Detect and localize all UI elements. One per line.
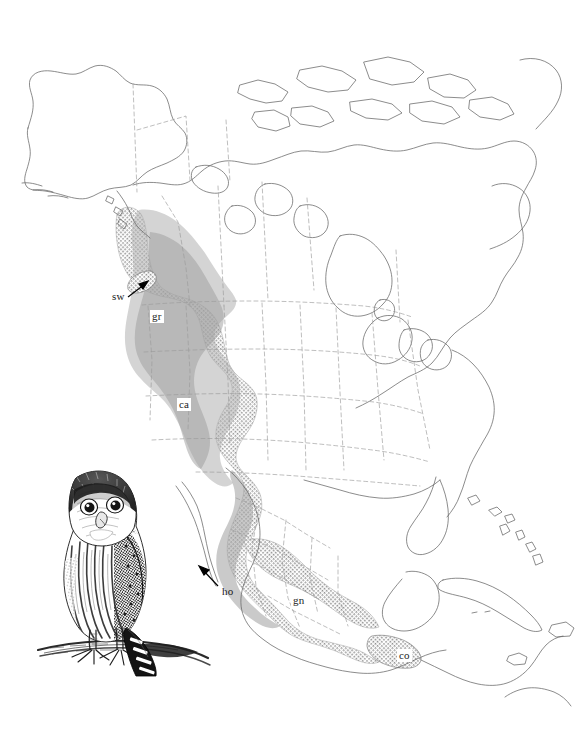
owl-eye-right [107,497,124,513]
border-sask-manitoba [262,182,268,300]
aleutian-chain [22,183,68,198]
owl-perch-branch [38,641,210,665]
arctic-islands-group [238,57,514,131]
bahamas-islands [468,495,543,565]
cuba-outline [438,578,542,631]
border-state-col-7 [372,313,384,460]
border-ontario-quebec [396,250,400,322]
border-state-col-5 [300,305,306,470]
owl-eye-left [81,499,98,515]
newfoundland-labrador [490,184,530,249]
gulf-coast [304,480,440,498]
border-alaska-yukon [133,84,137,192]
border-manitoba-ontario [307,198,314,290]
border-state-col-4 [262,303,268,460]
range-map-plate: sw gr ca ho gn co [0,0,577,749]
alaska-outline [25,65,187,198]
border-nwt-nunavut [226,120,230,182]
map-label-ho: ho [222,586,233,597]
map-label-ca: ca [177,398,191,411]
hudson-bay-outline [326,234,392,316]
map-label-gr: gr [150,310,164,323]
small-keys [472,611,490,613]
south-america-tip [505,688,571,706]
owl-head [66,467,139,546]
yucatan-peninsula [382,571,439,631]
owl-illustration [30,462,215,677]
border-yukon-nwt [137,116,190,180]
inland-lakes-north [191,165,328,237]
map-label-sw: sw [112,291,125,302]
usa-east-coast [447,350,494,517]
border-state-col-8 [408,320,430,450]
map-label-co: co [397,649,412,662]
hispaniola-outline [549,622,574,637]
jamaica-outline [507,653,527,665]
central-america-isthmus [421,636,563,685]
map-label-gn: gn [291,594,306,607]
greenland-edge [520,58,562,129]
